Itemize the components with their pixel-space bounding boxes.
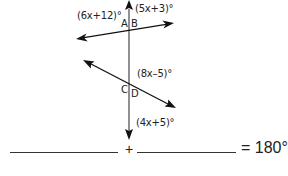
plus-sign: + — [125, 142, 133, 156]
angle-label-bottom-right: (4x+5)° — [136, 117, 174, 129]
point-label-d: D — [131, 88, 139, 99]
arrow-up-icon — [125, 0, 133, 10]
answer-blank-2[interactable] — [137, 152, 236, 153]
point-label-a: A — [121, 18, 128, 29]
equation-result: = 180° — [241, 139, 288, 157]
angle-label-middle-right: (8x–5)° — [137, 68, 172, 80]
answer-blank-1[interactable] — [10, 152, 118, 153]
angle-label-top-left: (6x+12)° — [77, 10, 122, 22]
angle-label-top-right: (5x+3)° — [135, 3, 173, 15]
point-label-b: B — [131, 18, 138, 29]
point-label-c: C — [121, 84, 128, 95]
